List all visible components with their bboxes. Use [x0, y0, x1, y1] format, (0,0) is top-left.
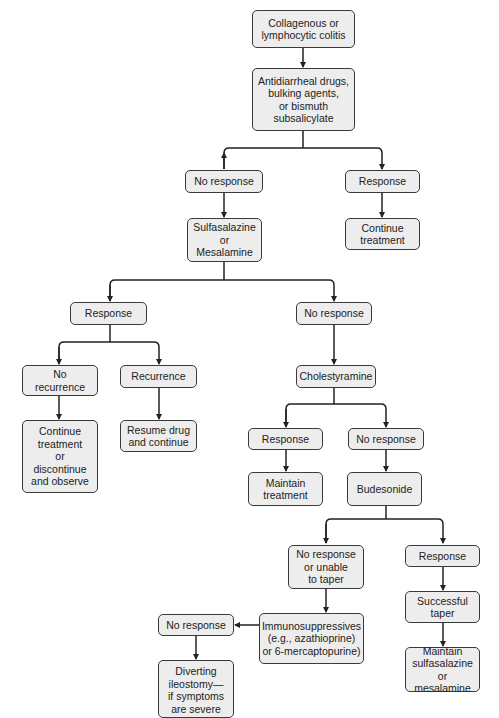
node-sulfasalazine: Sulfasalazine or Mesalamine: [187, 218, 262, 262]
node-response-2: Response: [70, 302, 147, 325]
node-start: Collagenous or lymphocytic colitis: [252, 10, 355, 48]
node-no-response-4: No response: [158, 614, 234, 636]
node-immunosuppressives: Immunosuppressives (e.g., azathioprine) …: [259, 613, 364, 664]
node-no-response-2: No response: [296, 302, 372, 325]
node-response-3: Response: [248, 428, 323, 450]
node-antidiarrheal: Antidiarrheal drugs, bulking agents, or …: [252, 68, 355, 131]
node-recurrence: Recurrence: [120, 365, 197, 388]
node-response-4: Response: [405, 545, 480, 567]
node-response-1: Response: [345, 170, 420, 193]
node-successful-taper: Successful taper: [405, 591, 480, 623]
node-continue-or-discontinue: Continue treatment or discontinue and ob…: [22, 420, 98, 493]
node-maintain-sulfasalazine: Maintain sulfasalazine or mesalamine: [405, 647, 480, 692]
node-no-recurrence: No recurrence: [22, 365, 98, 396]
node-maintain-treatment: Maintain treatment: [248, 472, 323, 506]
node-no-response-or-unable-to-taper: No response or unable to taper: [288, 545, 364, 589]
node-no-response-3: No response: [348, 428, 424, 450]
node-cholestyramine: Cholestyramine: [296, 365, 376, 388]
node-no-response-1: No response: [185, 170, 263, 193]
node-continue-treatment: Continue treatment: [345, 218, 420, 250]
node-diverting-ileostomy: Diverting ileostomy— if symptoms are sev…: [158, 660, 234, 718]
node-resume-drug: Resume drug and continue: [120, 420, 197, 452]
node-budesonide: Budesonide: [347, 472, 422, 506]
